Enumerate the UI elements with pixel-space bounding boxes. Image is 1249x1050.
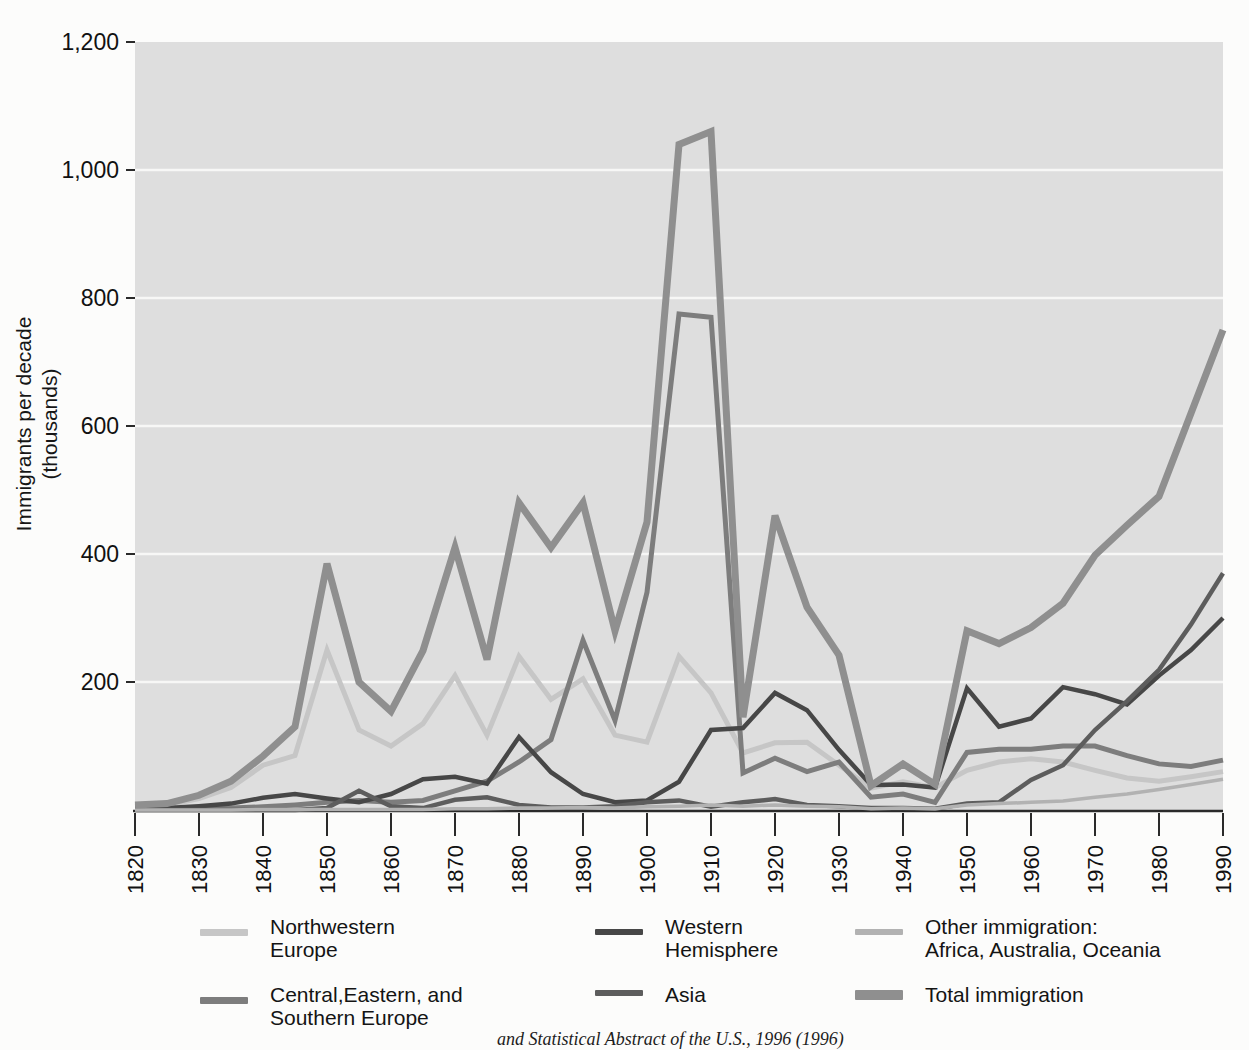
legend-label-line: Northwestern bbox=[270, 915, 395, 938]
legend-label-central-eastern-and-southern-europe: Central,Eastern, andSouthern Europe bbox=[270, 983, 463, 1029]
legend-item-total-immigration: Total immigration bbox=[855, 983, 1084, 1006]
chart-canvas: 2004006008001,0001,200182018301840185018… bbox=[0, 0, 1249, 905]
legend-swatch-total-immigration bbox=[855, 990, 903, 1000]
x-tick-label-1940: 1940 bbox=[891, 845, 916, 894]
legend-label-total-immigration: Total immigration bbox=[925, 983, 1084, 1006]
x-tick-label-1990: 1990 bbox=[1211, 845, 1236, 894]
legend-label-line: Western bbox=[665, 915, 778, 938]
legend-label-asia: Asia bbox=[665, 983, 706, 1006]
legend-label-line: Asia bbox=[665, 983, 706, 1006]
x-tick-label-1860: 1860 bbox=[379, 845, 404, 894]
x-tick-label-1840: 1840 bbox=[251, 845, 276, 894]
x-tick-label-1980: 1980 bbox=[1147, 845, 1172, 894]
y-tick-label-1000: 1,000 bbox=[61, 157, 119, 183]
y-axis-title: Immigrants per decade (thousands) bbox=[11, 299, 63, 549]
legend-label-northwestern-europe: NorthwesternEurope bbox=[270, 915, 395, 961]
legend-label-line: Other immigration: bbox=[925, 915, 1161, 938]
legend-item-northwestern-europe: NorthwesternEurope bbox=[200, 915, 395, 961]
legend-swatch-other-immigration-africa-australia-oceania bbox=[855, 929, 903, 935]
x-tick-label-1960: 1960 bbox=[1019, 845, 1044, 894]
x-tick-label-1880: 1880 bbox=[507, 845, 532, 894]
legend-swatch-asia bbox=[595, 990, 643, 996]
x-tick-label-1820: 1820 bbox=[123, 845, 148, 894]
x-tick-label-1920: 1920 bbox=[763, 845, 788, 894]
x-tick-label-1890: 1890 bbox=[571, 845, 596, 894]
legend-label-line: Hemisphere bbox=[665, 938, 778, 961]
legend-label-western-hemisphere: WesternHemisphere bbox=[665, 915, 778, 961]
legend-label-line: Africa, Australia, Oceania bbox=[925, 938, 1161, 961]
legend-label-line: Total immigration bbox=[925, 983, 1084, 1006]
x-tick-label-1910: 1910 bbox=[699, 845, 724, 894]
legend-label-other-immigration-africa-australia-oceania: Other immigration:Africa, Australia, Oce… bbox=[925, 915, 1161, 961]
y-tick-label-400: 400 bbox=[81, 541, 119, 567]
x-tick-label-1870: 1870 bbox=[443, 845, 468, 894]
legend-label-line: Central,Eastern, and bbox=[270, 983, 463, 1006]
legend-item-other-immigration-africa-australia-oceania: Other immigration:Africa, Australia, Oce… bbox=[855, 915, 1161, 961]
y-tick-label-600: 600 bbox=[81, 413, 119, 439]
legend-item-western-hemisphere: WesternHemisphere bbox=[595, 915, 778, 961]
y-tick-label-800: 800 bbox=[81, 285, 119, 311]
legend-item-asia: Asia bbox=[595, 983, 706, 1006]
legend-swatch-central-eastern-and-southern-europe bbox=[200, 997, 248, 1004]
y-axis-title-line2: (thousands) bbox=[37, 299, 63, 549]
x-tick-label-1970: 1970 bbox=[1083, 845, 1108, 894]
y-axis-title-line1: Immigrants per decade bbox=[11, 299, 37, 549]
x-tick-label-1900: 1900 bbox=[635, 845, 660, 894]
x-tick-label-1830: 1830 bbox=[187, 845, 212, 894]
y-tick-label-1200: 1,200 bbox=[61, 29, 119, 55]
legend-label-line: Southern Europe bbox=[270, 1006, 463, 1029]
x-tick-label-1850: 1850 bbox=[315, 845, 340, 894]
legend-swatch-western-hemisphere bbox=[595, 929, 643, 935]
legend-label-line: Europe bbox=[270, 938, 395, 961]
source-caption: and Statistical Abstract of the U.S., 19… bbox=[497, 1029, 844, 1050]
legend-swatch-northwestern-europe bbox=[200, 929, 248, 936]
x-tick-label-1930: 1930 bbox=[827, 845, 852, 894]
y-tick-label-200: 200 bbox=[81, 669, 119, 695]
x-tick-label-1950: 1950 bbox=[955, 845, 980, 894]
legend-item-central-eastern-and-southern-europe: Central,Eastern, andSouthern Europe bbox=[200, 983, 463, 1029]
